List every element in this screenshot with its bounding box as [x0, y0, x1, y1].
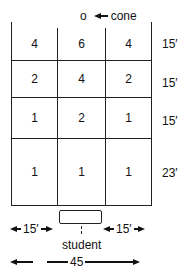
grid-cell: 4	[106, 28, 151, 60]
grid-line-bottom	[11, 205, 152, 206]
student-label: student	[62, 238, 101, 252]
cone-circle-icon: o	[80, 9, 87, 23]
student-box	[59, 210, 102, 224]
arrow-right-icon	[133, 259, 140, 265]
cone-label: cone	[111, 9, 137, 23]
grid-cell: 2	[12, 61, 57, 97]
dimension-right-column: 15′	[103, 222, 145, 236]
student-marker-dash	[81, 231, 82, 234]
dimension-total-width: 45	[10, 255, 140, 269]
arrow-left-icon	[10, 259, 17, 265]
grid-cell: 2	[106, 61, 151, 97]
student-marker-dash	[81, 226, 82, 229]
grid-cell: 1	[106, 98, 151, 138]
row-length-label: 15′	[162, 37, 178, 51]
arrow-right-icon	[46, 226, 53, 232]
dimension-left-column: 15′	[10, 222, 53, 236]
arrow-left-icon	[94, 13, 108, 19]
row-length-label: 15′	[162, 114, 178, 128]
grid-cell: 4	[12, 28, 57, 60]
grid-cell: 1	[58, 139, 105, 205]
grid-cell: 4	[58, 61, 105, 97]
grid-cell: 2	[58, 98, 105, 138]
row-length-label: 15′	[162, 76, 178, 90]
arrow-right-icon	[138, 226, 145, 232]
grid-cell: 1	[12, 98, 57, 138]
grid-cell: 1	[106, 139, 151, 205]
arrow-left-icon	[10, 226, 17, 232]
cone-marker: o cone	[80, 9, 137, 23]
arrow-left-icon	[103, 226, 110, 232]
row-length-label: 23′	[162, 166, 178, 180]
grid-cell: 6	[58, 28, 105, 60]
grid-cell: 1	[12, 139, 57, 205]
grid-line-right	[151, 22, 152, 206]
